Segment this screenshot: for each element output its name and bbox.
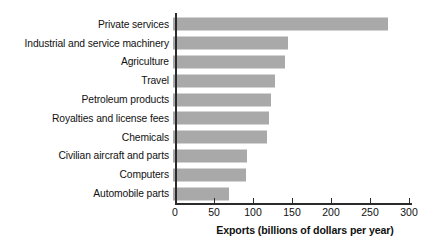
bar-category-label: Royalties and license fees — [0, 113, 173, 124]
chart-row: Petroleum products — [0, 90, 435, 109]
bar — [173, 74, 275, 87]
y-axis-line — [175, 13, 177, 204]
bar — [173, 168, 246, 181]
chart-row: Travel — [0, 71, 435, 90]
bar — [173, 131, 267, 144]
x-axis-tick — [409, 198, 410, 204]
x-axis-tick-label: 150 — [283, 206, 301, 218]
x-axis-tick-label: 50 — [208, 206, 220, 218]
bar-category-label: Automobile parts — [0, 188, 173, 199]
x-axis-tick-label: 250 — [361, 206, 379, 218]
bar-track — [173, 15, 435, 34]
x-axis-tick-label: 100 — [244, 206, 262, 218]
bar-category-label: Petroleum products — [0, 94, 173, 105]
x-axis-tick-label: 0 — [172, 206, 178, 218]
bar-category-label: Travel — [0, 75, 173, 86]
bar — [173, 55, 285, 68]
bar-track — [173, 184, 435, 203]
x-axis-tick-label: 200 — [322, 206, 340, 218]
bar — [173, 149, 247, 162]
bar-category-label: Civilian aircraft and parts — [0, 150, 173, 161]
exports-bar-chart: Private servicesIndustrial and service m… — [0, 0, 435, 245]
chart-row: Industrial and service machinery — [0, 34, 435, 53]
bar-track — [173, 90, 435, 109]
x-axis-tick — [214, 198, 215, 204]
bar — [173, 93, 271, 106]
bar-track — [173, 71, 435, 90]
bar-track — [173, 165, 435, 184]
bar — [173, 18, 388, 31]
x-axis-tick — [292, 198, 293, 204]
chart-row: Chemicals — [0, 128, 435, 147]
bar-category-label: Computers — [0, 169, 173, 180]
bar-track — [173, 109, 435, 128]
bar-track — [173, 128, 435, 147]
chart-plot-area: Private servicesIndustrial and service m… — [0, 15, 435, 203]
bar-category-label: Chemicals — [0, 132, 173, 143]
bar — [173, 37, 288, 50]
bar-track — [173, 34, 435, 53]
x-axis-tick — [253, 198, 254, 204]
bar-category-label: Industrial and service machinery — [0, 38, 173, 49]
bar-track — [173, 53, 435, 72]
bar-category-label: Private services — [0, 19, 173, 30]
x-axis-title: Exports (billions of dollars per year) — [175, 224, 435, 236]
bar-category-label: Agriculture — [0, 56, 173, 67]
x-axis-line — [175, 203, 412, 205]
bar — [173, 187, 229, 200]
chart-row: Royalties and license fees — [0, 109, 435, 128]
x-axis-tick-label: 300 — [400, 206, 418, 218]
chart-row: Agriculture — [0, 53, 435, 72]
x-axis-tick — [331, 198, 332, 204]
x-axis-tick — [175, 198, 176, 204]
chart-row: Civilian aircraft and parts — [0, 147, 435, 166]
bar — [173, 112, 269, 125]
chart-row: Computers — [0, 165, 435, 184]
x-axis-tick — [370, 198, 371, 204]
chart-row: Private services — [0, 15, 435, 34]
bar-track — [173, 147, 435, 166]
